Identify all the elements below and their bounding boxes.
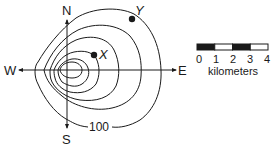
point-y-label: Y (135, 3, 145, 18)
scale-unit-label: kilometers (208, 65, 259, 77)
contour-value-label: 100 (89, 120, 109, 134)
scale-segment-3 (250, 44, 268, 50)
scale-segment-0 (197, 44, 215, 50)
topographic-map: N S W E 100 X Y 0 1 2 3 4 kilometers (0, 0, 274, 150)
contour-5 (58, 59, 89, 86)
scale-tick-0: 0 (196, 53, 202, 65)
compass-rose (19, 20, 176, 128)
scale-ticks: 0 1 2 3 4 (196, 53, 270, 65)
scale-tick-2: 2 (230, 53, 236, 65)
scale-tick-3: 3 (247, 53, 253, 65)
contour-lines (35, 9, 161, 127)
compass-west-label: W (4, 63, 17, 78)
scale-segment-2 (233, 44, 251, 50)
contour-2 (44, 25, 141, 109)
point-x-marker (91, 52, 97, 58)
compass-north-label: N (62, 3, 71, 18)
compass-east-label: E (178, 63, 187, 78)
scale-bar (197, 44, 268, 50)
scale-segment-1 (215, 44, 233, 50)
point-x-label: X (98, 47, 109, 62)
compass-south-label: S (62, 132, 71, 147)
scale-tick-1: 1 (213, 53, 219, 65)
scale-tick-4: 4 (264, 53, 270, 65)
